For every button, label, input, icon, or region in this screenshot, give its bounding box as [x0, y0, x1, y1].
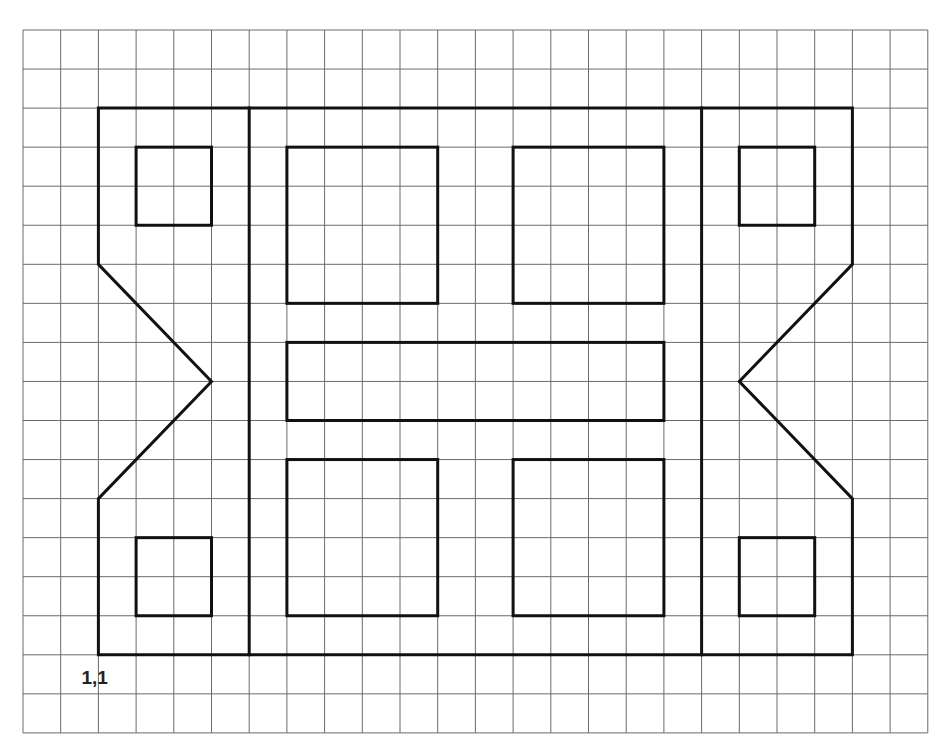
grid-diagram: 1,1	[0, 0, 952, 755]
origin-label: 1,1	[81, 667, 108, 688]
grid-lines	[23, 30, 928, 733]
